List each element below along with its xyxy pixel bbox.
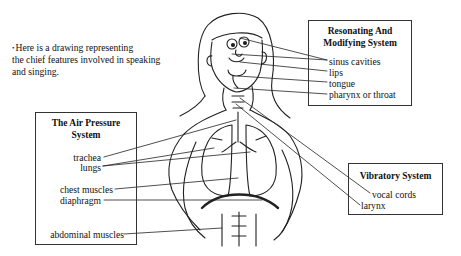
intro-line-2: the chief features involved in speaking [12,54,182,66]
label-lungs: lungs [80,162,101,173]
label-lips: lips [329,67,343,78]
air-title-1: The Air Pressure [36,117,136,129]
label-chest-muscles: chest muscles [60,184,113,195]
label-sinus-cavities: sinus cavities [329,56,380,67]
diaphragm [202,195,278,209]
right-lung [246,125,276,196]
label-abdominal-muscles: abdominal muscles [50,229,124,240]
label-pharynx: pharynx or throat [329,89,396,100]
label-vocal-cords: vocal cords [372,189,416,200]
resonating-title-2: Modifying System [309,37,411,49]
air-pressure-system-box: The Air Pressure System trachea lungs ch… [35,112,137,245]
label-diaphragm: diaphragm [60,195,101,206]
label-tongue: tongue [329,78,355,89]
vibratory-title: Vibratory System [349,170,442,182]
intro-line-1: •Here is a drawing representing [12,42,182,54]
resonating-title-1: Resonating And [309,25,411,37]
intro-line-3: and singing. [12,66,182,78]
torso-outline [169,110,226,230]
vibratory-system-box: Vibratory System vocal cords larynx [348,163,443,215]
air-title-2: System [36,129,136,141]
resonating-system-box: Resonating And Modifying System sinus ca… [308,20,412,106]
left-lung [202,125,232,196]
face-outline [211,40,263,92]
label-larynx: larynx [361,200,386,211]
intro-text: •Here is a drawing representing the chie… [12,42,182,78]
